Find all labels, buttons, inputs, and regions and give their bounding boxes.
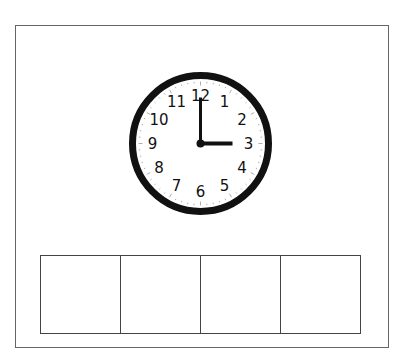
- answer-box-1[interactable]: [41, 256, 121, 333]
- numeral-5: 5: [220, 177, 230, 195]
- numeral-2: 2: [237, 111, 247, 129]
- answer-box-2[interactable]: [121, 256, 201, 333]
- answer-boxes: [40, 255, 361, 334]
- numeral-7: 7: [172, 177, 182, 195]
- answer-box-4[interactable]: [281, 256, 360, 333]
- numeral-1: 1: [220, 93, 230, 111]
- numeral-8: 8: [154, 159, 164, 177]
- analog-clock: 121234567891011: [128, 71, 273, 216]
- numeral-9: 9: [148, 135, 158, 153]
- clock-center-pin: [197, 140, 205, 148]
- numeral-11: 11: [167, 93, 186, 111]
- numeral-6: 6: [196, 183, 206, 201]
- numeral-4: 4: [237, 159, 247, 177]
- numeral-10: 10: [149, 111, 168, 129]
- numeral-3: 3: [244, 135, 254, 153]
- answer-box-3[interactable]: [201, 256, 281, 333]
